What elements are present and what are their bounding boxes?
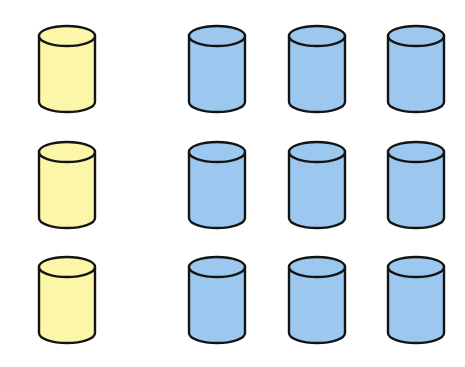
blue-cylinder-icon	[287, 255, 347, 345]
blue-cylinder-icon	[386, 140, 446, 230]
yellow-cylinder-icon	[37, 24, 97, 114]
blue-cylinder-icon	[187, 24, 247, 114]
yellow-cylinder-icon	[37, 255, 97, 345]
blue-cylinder-icon	[287, 140, 347, 230]
blue-cylinder-icon	[187, 255, 247, 345]
yellow-cylinder-icon	[37, 140, 97, 230]
blue-cylinder-icon	[386, 24, 446, 114]
blue-cylinder-icon	[187, 140, 247, 230]
blue-cylinder-icon	[287, 24, 347, 114]
blue-cylinder-icon	[386, 255, 446, 345]
